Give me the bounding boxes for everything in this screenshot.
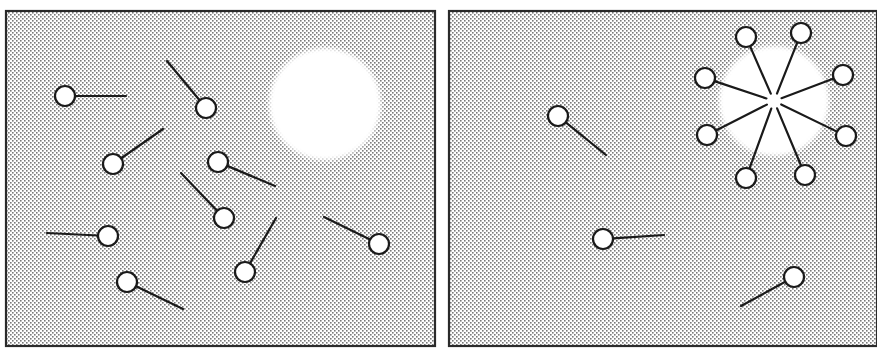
- hydrophilic-head-icon: [791, 23, 811, 43]
- micelle-core: [719, 46, 829, 156]
- hydrophilic-head-icon: [697, 125, 717, 145]
- hydrophilic-head-icon: [784, 267, 804, 287]
- hydrophilic-head-icon: [214, 208, 234, 228]
- hydrophilic-head-icon: [196, 98, 216, 118]
- hydrophilic-head-icon: [833, 65, 853, 85]
- hydrophilic-head-icon: [593, 229, 613, 249]
- hydrophilic-head-icon: [736, 168, 756, 188]
- hydrophilic-head-icon: [369, 234, 389, 254]
- hydrophilic-head-icon: [736, 27, 756, 47]
- hydrophilic-head-icon: [836, 126, 856, 146]
- hydrophilic-head-icon: [795, 165, 815, 185]
- hydrophilic-head-icon: [695, 68, 715, 88]
- micelle-diagram: [0, 0, 877, 360]
- hydrophilic-head-icon: [103, 154, 123, 174]
- panel-left-dispersed-monomers: [6, 11, 435, 346]
- hydrophilic-head-icon: [55, 86, 75, 106]
- hydrophilic-head-icon: [548, 106, 568, 126]
- panel-right-micelle: [449, 11, 877, 346]
- hydrophilic-head-icon: [208, 152, 228, 172]
- hydrophilic-head-icon: [235, 262, 255, 282]
- hydrophilic-head-icon: [117, 272, 137, 292]
- hydrophilic-head-icon: [98, 226, 118, 246]
- oil-droplet: [269, 48, 381, 160]
- solution-background: [6, 11, 435, 346]
